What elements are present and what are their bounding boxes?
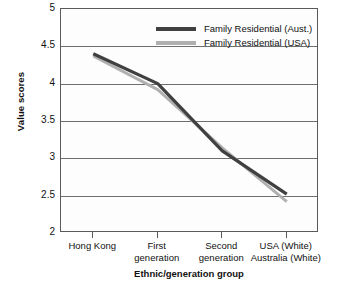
legend-item: Family Residential (USA) bbox=[156, 37, 326, 49]
y-axis-tick-label: 4.5 bbox=[15, 40, 55, 50]
y-axis-tick-label: 3 bbox=[15, 152, 55, 162]
x-axis-title: Ethnic/generation group bbox=[60, 268, 318, 279]
y-axis-tick-label: 5 bbox=[15, 3, 55, 13]
legend-label-aust: Family Residential (Aust.) bbox=[204, 24, 312, 34]
legend-swatch-usa-icon bbox=[156, 41, 196, 45]
legend-label-usa: Family Residential (USA) bbox=[204, 38, 310, 48]
series-line bbox=[93, 56, 287, 202]
plot-area: Family Residential (Aust.) Family Reside… bbox=[60, 8, 318, 232]
y-axis-title: Value scores bbox=[15, 42, 26, 162]
y-axis-tick-label: 4 bbox=[15, 78, 55, 88]
x-axis-tick bbox=[221, 232, 222, 238]
series-line bbox=[93, 54, 287, 194]
y-axis-tick-label: 2.5 bbox=[15, 190, 55, 200]
legend: Family Residential (Aust.) Family Reside… bbox=[156, 23, 326, 51]
y-axis-tick-label: 3.5 bbox=[15, 115, 55, 125]
x-axis-tick-label-line: Australia (White) bbox=[241, 252, 331, 264]
legend-swatch-aust-icon bbox=[156, 27, 196, 31]
x-axis-tick bbox=[92, 232, 93, 238]
x-axis-tick-label-line: USA (White) bbox=[241, 240, 331, 252]
line-chart: Value scores 54.543.532.52 Family Reside… bbox=[0, 0, 337, 287]
x-axis-tick bbox=[286, 232, 287, 238]
x-axis-tick bbox=[157, 232, 158, 238]
y-axis-tick-label: 2 bbox=[15, 227, 55, 237]
legend-item: Family Residential (Aust.) bbox=[156, 23, 326, 35]
x-axis-tick-label: USA (White)Australia (White) bbox=[241, 240, 331, 263]
